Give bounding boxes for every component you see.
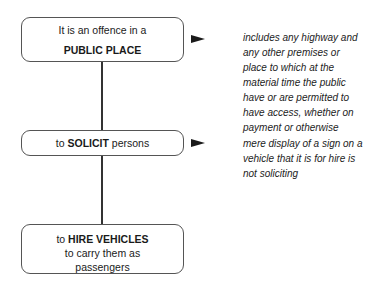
- note-line: vehicle that it is for hire is: [243, 151, 375, 166]
- note-line: not soliciting: [243, 166, 375, 181]
- node-hire-line2: to carry them as: [22, 246, 183, 260]
- note-line: any other premises or: [243, 45, 373, 60]
- node-hire-line3: passengers: [22, 260, 183, 274]
- node-hire-prefix: to: [56, 233, 68, 245]
- node-solicit: to SOLICIT persons: [21, 130, 184, 156]
- note-public-place: includes any highway and any other premi…: [243, 30, 373, 135]
- node-solicit-suffix: persons: [109, 137, 149, 149]
- node-public-place-title: PUBLIC PLACE: [22, 44, 183, 56]
- node-hire-vehicles: to HIRE VEHICLES to carry them as passen…: [21, 224, 184, 274]
- note-line: have or are permitted to: [243, 90, 373, 105]
- connector-line-1: [101, 62, 103, 130]
- note-line: place to which at the: [243, 60, 373, 75]
- note-line: material time the public: [243, 75, 373, 90]
- node-solicit-title: SOLICIT: [67, 137, 108, 149]
- node-public-place: It is an offence in a PUBLIC PLACE: [21, 17, 184, 62]
- note-line: have access, whether on: [243, 105, 373, 120]
- note-solicit: mere display of a sign on a vehicle that…: [243, 136, 375, 181]
- node-hire-title: HIRE VEHICLES: [68, 233, 149, 245]
- note-line: payment or otherwise: [243, 120, 373, 135]
- arrow-right-icon: [191, 139, 205, 147]
- connector-line-2: [101, 156, 103, 224]
- node-public-place-intro: It is an offence in a: [22, 24, 183, 36]
- node-solicit-prefix: to: [56, 137, 68, 149]
- note-line: mere display of a sign on a: [243, 136, 375, 151]
- note-line: includes any highway and: [243, 30, 373, 45]
- arrow-right-icon: [191, 35, 205, 43]
